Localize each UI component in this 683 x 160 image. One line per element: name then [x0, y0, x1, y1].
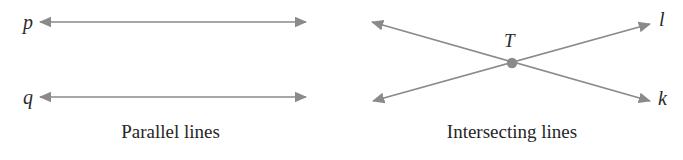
geometry-figure: p q T l k Parallel lines Intersecting li… — [0, 0, 683, 160]
parallel-lines-panel — [40, 22, 306, 97]
line-label-l: l — [659, 9, 665, 29]
caption-parallel-lines: Parallel lines — [0, 122, 341, 141]
intersection-point-T — [507, 58, 517, 68]
line-label-q: q — [23, 87, 33, 107]
line-label-k: k — [658, 88, 667, 108]
point-label-T: T — [504, 31, 515, 50]
caption-intersecting-lines: Intersecting lines — [341, 122, 683, 141]
line-label-p: p — [23, 12, 33, 32]
